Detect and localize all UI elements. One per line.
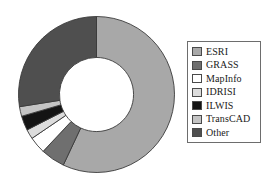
legend-label-transcad: TransCAD [206, 114, 250, 124]
legend-label-other: Other [206, 128, 229, 138]
donut-chart-svg [17, 15, 176, 174]
donut-slice-other[interactable] [18, 17, 96, 107]
legend-swatch-idrisi [192, 88, 202, 97]
legend-swatch-mapinfo [192, 74, 202, 83]
legend-swatch-transcad [192, 115, 202, 124]
legend-swatch-grass [192, 61, 202, 70]
legend-item-idrisi[interactable]: IDRISI [192, 86, 257, 99]
legend-item-transcad[interactable]: TransCAD [192, 113, 257, 126]
legend-item-other[interactable]: Other [192, 126, 257, 139]
legend-label-esri: ESRI [206, 47, 228, 57]
pie-chart-figure: ESRI GRASS MapInfo IDRISI ILWIS TransCAD [0, 0, 274, 183]
legend-swatch-ilwis [192, 101, 202, 110]
chart-legend: ESRI GRASS MapInfo IDRISI ILWIS TransCAD [187, 41, 261, 143]
legend-label-mapinfo: MapInfo [206, 74, 242, 84]
legend-label-ilwis: ILWIS [206, 101, 234, 111]
legend-label-grass: GRASS [206, 60, 239, 70]
legend-swatch-other [192, 128, 202, 137]
legend-item-mapinfo[interactable]: MapInfo [192, 72, 257, 85]
legend-item-ilwis[interactable]: ILWIS [192, 99, 257, 112]
legend-item-grass[interactable]: GRASS [192, 59, 257, 72]
legend-item-list: ESRI GRASS MapInfo IDRISI ILWIS TransCAD [192, 45, 257, 139]
donut-slice-group [18, 17, 174, 173]
legend-swatch-esri [192, 47, 202, 56]
donut-chart [17, 15, 176, 174]
legend-item-esri[interactable]: ESRI [192, 45, 257, 58]
legend-label-idrisi: IDRISI [206, 87, 236, 97]
